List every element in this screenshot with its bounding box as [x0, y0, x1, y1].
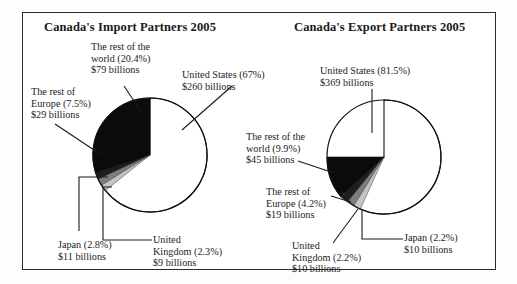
- label-line-1: United: [292, 240, 361, 252]
- label-line-2: $11 billions: [58, 251, 112, 263]
- label-export-united-kingdom: United Kingdom (2.2%) $10 billions: [292, 240, 361, 275]
- label-line-3: $79 billions: [91, 64, 150, 76]
- label-export-rest-of-world: The rest of the world (9.9%) $45 billion…: [246, 131, 305, 166]
- label-line-1: The rest of: [31, 86, 91, 98]
- label-line-2: $10 billions: [404, 244, 458, 256]
- label-line-3: $19 billions: [266, 209, 326, 221]
- label-line-1: The rest of the: [246, 131, 305, 143]
- label-line-2: $260 billions: [182, 81, 265, 93]
- label-line-1: The rest of: [266, 186, 326, 198]
- label-line-1: United States (67%): [182, 69, 265, 81]
- label-export-rest-of-europe: The rest of Europe (4.2%) $19 billions: [266, 186, 326, 221]
- chart-title-export: Canada's Export Partners 2005: [294, 20, 465, 35]
- label-line-3: $9 billions: [153, 257, 222, 269]
- label-line-2: Europe (7.5%): [31, 98, 91, 110]
- label-import-japan: Japan (2.8%) $11 billions: [58, 239, 112, 262]
- label-line-2: $369 billions: [320, 77, 410, 89]
- label-line-3: $29 billions: [31, 109, 91, 121]
- label-import-united-kingdom: United Kingdom (2.3%) $9 billions: [153, 234, 222, 269]
- label-line-1: United States (81.5%): [320, 65, 410, 77]
- label-line-1: The rest of the: [91, 41, 150, 53]
- label-line-2: world (9.9%): [246, 143, 305, 155]
- chart-title-import: Canada's Import Partners 2005: [44, 20, 216, 35]
- label-line-1: Japan (2.8%): [58, 239, 112, 251]
- label-line-2: Kingdom (2.3%): [153, 246, 222, 258]
- label-line-2: world (20.4%): [91, 53, 150, 65]
- label-import-rest-of-europe: The rest of Europe (7.5%) $29 billions: [31, 86, 91, 121]
- label-line-1: United: [153, 234, 222, 246]
- label-line-1: Japan (2.2%): [404, 232, 458, 244]
- label-line-2: Kingdom (2.2%): [292, 252, 361, 264]
- label-export-united-states: United States (81.5%) $369 billions: [320, 65, 410, 88]
- label-line-2: Europe (4.2%): [266, 198, 326, 210]
- label-line-3: $45 billions: [246, 154, 305, 166]
- label-import-united-states: United States (67%) $260 billions: [182, 69, 265, 92]
- page-canvas: Canada's Import Partners 2005 Canada's E…: [0, 0, 517, 284]
- label-line-3: $10 billions: [292, 263, 361, 275]
- label-import-rest-of-world: The rest of the world (20.4%) $79 billio…: [91, 41, 150, 76]
- label-export-japan: Japan (2.2%) $10 billions: [404, 232, 458, 255]
